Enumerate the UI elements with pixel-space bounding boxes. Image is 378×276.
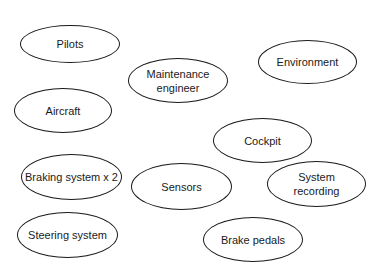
node-system-recording: System recording	[267, 161, 366, 207]
node-brake-pedals: Brake pedals	[203, 217, 303, 262]
node-cockpit: Cockpit	[213, 118, 312, 163]
node-label: Cockpit	[244, 134, 281, 148]
node-label: Pilots	[57, 37, 84, 51]
node-aircraft: Aircraft	[14, 88, 112, 133]
node-environment: Environment	[258, 40, 357, 84]
node-label: Aircraft	[46, 104, 81, 118]
node-label: Braking system x 2	[25, 170, 118, 184]
node-braking-system: Braking system x 2	[21, 154, 122, 200]
node-label: System recording	[294, 170, 340, 198]
node-label: Sensors	[161, 180, 201, 194]
node-label: Brake pedals	[221, 233, 285, 247]
node-label: Environment	[277, 55, 339, 69]
node-steering-system: Steering system	[17, 212, 118, 258]
node-maintenance-engineer: Maintenance engineer	[128, 58, 228, 103]
diagram-canvas: Pilots Maintenance engineer Environment …	[0, 0, 378, 276]
node-sensors: Sensors	[131, 163, 232, 210]
node-label: Maintenance engineer	[147, 67, 210, 95]
node-pilots: Pilots	[20, 25, 120, 63]
node-label: Steering system	[28, 228, 107, 242]
